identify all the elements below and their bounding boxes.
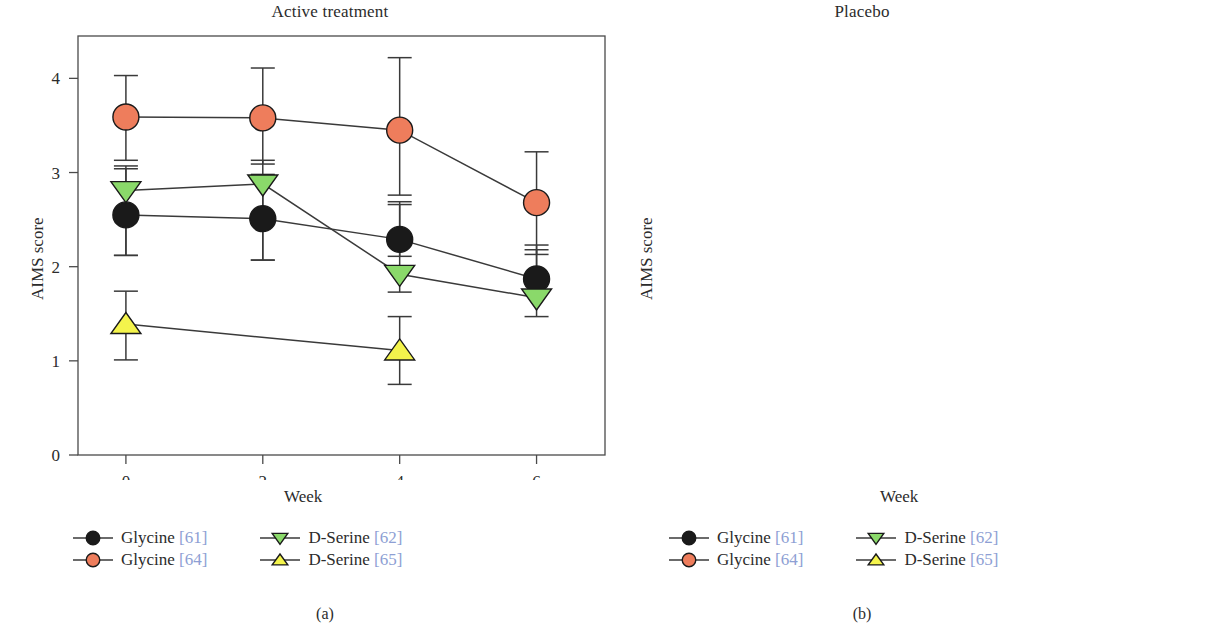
panel-a-x-axis-label: Week: [284, 487, 322, 507]
panel-b-legend: Glycine [61] D-Serine [62] Glycine [64]: [668, 528, 998, 570]
legend-label-glycine-64: Glycine [64]: [121, 550, 207, 570]
legend-item-dserine-62[interactable]: D-Serine [62]: [259, 528, 402, 548]
series-line-d-serine-62-: [126, 184, 537, 298]
x-tick-label: 6: [532, 472, 541, 480]
legend-item-dserine-62[interactable]: D-Serine [62]: [855, 528, 998, 548]
legend-marker-dserine-65: [259, 550, 301, 570]
panel-active-treatment: Active treatment AIMS score Week 0123402…: [0, 0, 620, 637]
legend-marker-glycine-61: [72, 528, 114, 548]
panel-b-plot: 012340246: [620, 0, 1214, 480]
series-markers-glycine-61-: [113, 202, 550, 292]
x-tick-label: 4: [395, 472, 404, 480]
legend-item-glycine-64[interactable]: Glycine [64]: [72, 550, 207, 570]
panel-b-x-axis-label: Week: [880, 487, 918, 507]
legend-label-dserine-65: D-Serine [65]: [904, 550, 998, 570]
figure-root: Active treatment AIMS score Week 0123402…: [0, 0, 1214, 637]
y-tick-label: 4: [52, 69, 61, 88]
series-markers-d-serine-65-: [111, 313, 415, 360]
legend-item-glycine-64[interactable]: Glycine [64]: [668, 550, 803, 570]
legend-marker-dserine-62: [855, 528, 897, 548]
legend-label-glycine-61: Glycine [61]: [121, 528, 207, 548]
panel-a-legend: Glycine [61] D-Serine [62] Glycine [64]: [72, 528, 402, 570]
panel-placebo: Placebo AIMS score Week 012340246 Glycin…: [620, 0, 1214, 637]
series-line-glycine-64-: [126, 117, 537, 203]
legend-item-dserine-65[interactable]: D-Serine [65]: [855, 550, 998, 570]
panel-b-caption: (b): [620, 605, 1214, 623]
series-line-glycine-61-: [126, 215, 537, 279]
series-line-d-serine-65-: [126, 324, 400, 350]
panel-a-caption: (a): [0, 605, 620, 623]
legend-marker-glycine-61: [668, 528, 710, 548]
legend-marker-dserine-62: [259, 528, 301, 548]
x-tick-label: 0: [122, 472, 131, 480]
legend-label-dserine-62: D-Serine [62]: [308, 528, 402, 548]
errorbars-d-serine-62-: [114, 160, 549, 316]
legend-item-dserine-65[interactable]: D-Serine [65]: [259, 550, 402, 570]
legend-label-glycine-64: Glycine [64]: [717, 550, 803, 570]
legend-label-dserine-65: D-Serine [65]: [308, 550, 402, 570]
y-tick-label: 2: [52, 258, 61, 277]
legend-marker-glycine-64: [668, 550, 710, 570]
legend-marker-dserine-65: [855, 550, 897, 570]
legend-label-glycine-61: Glycine [61]: [717, 528, 803, 548]
legend-label-dserine-62: D-Serine [62]: [904, 528, 998, 548]
x-tick-label: 2: [259, 472, 268, 480]
errorbars-glycine-64-: [114, 58, 549, 255]
series-markers-glycine-64-: [113, 104, 550, 216]
panel-a-plot: 012340246: [0, 0, 620, 480]
legend-marker-glycine-64: [72, 550, 114, 570]
legend-item-glycine-61[interactable]: Glycine [61]: [72, 528, 207, 548]
y-tick-label: 0: [52, 446, 61, 465]
legend-item-glycine-61[interactable]: Glycine [61]: [668, 528, 803, 548]
y-tick-label: 3: [52, 164, 61, 183]
y-tick-label: 1: [52, 352, 61, 371]
